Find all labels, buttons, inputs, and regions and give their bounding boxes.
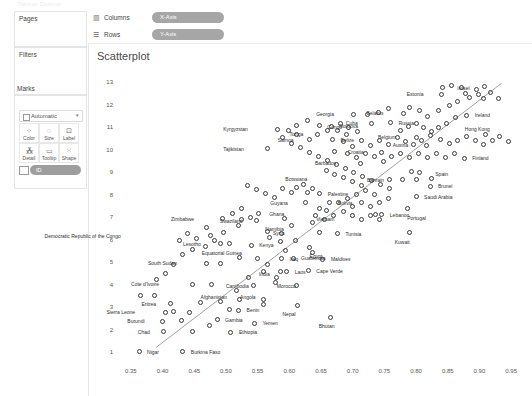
- mark-type-select[interactable]: Automatic ▾: [19, 110, 83, 122]
- columns-shelf[interactable]: ▥ Columns X-Axis: [88, 9, 532, 27]
- scatter-point[interactable]: [386, 106, 391, 111]
- scatter-point[interactable]: [386, 196, 391, 201]
- scatter-point[interactable]: [307, 245, 312, 250]
- scatter-point[interactable]: [190, 247, 195, 252]
- scatter-point[interactable]: [332, 172, 337, 177]
- scatter-point[interactable]: [350, 144, 355, 149]
- scatter-point[interactable]: [447, 103, 452, 108]
- marks-field-pill-id[interactable]: ID: [30, 165, 81, 175]
- scatter-point[interactable]: [482, 84, 487, 89]
- scatter-point[interactable]: [388, 120, 393, 125]
- scatter-point[interactable]: [282, 216, 287, 221]
- scatter-point[interactable]: [490, 138, 495, 143]
- scatter-point[interactable]: [368, 213, 373, 218]
- size-button[interactable]: ◌ Size: [39, 123, 59, 143]
- scatter-point[interactable]: [395, 135, 400, 140]
- scatter-point[interactable]: [358, 161, 363, 166]
- scatter-point[interactable]: [345, 151, 350, 156]
- shape-button[interactable]: ⁙ Shape: [59, 143, 79, 163]
- scatter-point[interactable]: [310, 220, 315, 225]
- scatter-point[interactable]: [405, 206, 410, 211]
- scatter-point[interactable]: [417, 170, 422, 175]
- scatter-point[interactable]: [303, 200, 308, 205]
- rows-pill-y-axis[interactable]: Y-Axis: [152, 29, 224, 40]
- scatter-point[interactable]: [436, 108, 441, 113]
- scatter-point[interactable]: [280, 186, 285, 191]
- scatter-point[interactable]: [152, 293, 157, 298]
- scatter-point[interactable]: [331, 213, 336, 218]
- scatter-point[interactable]: [230, 211, 235, 216]
- scatter-point[interactable]: [334, 162, 339, 167]
- scatter-point[interactable]: [473, 138, 478, 143]
- scatter-point[interactable]: [305, 118, 310, 123]
- scatter-point[interactable]: [179, 318, 184, 323]
- scatter-point[interactable]: [351, 112, 356, 117]
- scatter-point[interactable]: [265, 262, 270, 267]
- scatter-point[interactable]: [163, 271, 168, 276]
- scatter-point[interactable]: [221, 230, 226, 235]
- scatter-point[interactable]: [377, 217, 382, 222]
- scatter-point[interactable]: [265, 146, 270, 151]
- scatter-point[interactable]: [381, 159, 386, 164]
- detail-button[interactable]: ⁂ Detail: [19, 143, 39, 163]
- scatter-point[interactable]: [301, 182, 306, 187]
- scatter-point[interactable]: [428, 184, 433, 189]
- scatter-point[interactable]: [414, 177, 419, 182]
- scatter-point[interactable]: [368, 143, 373, 148]
- scatter-point[interactable]: [327, 200, 332, 205]
- scatter-point[interactable]: [439, 92, 444, 97]
- scatter-point[interactable]: [227, 241, 232, 246]
- scatter-point[interactable]: [306, 268, 311, 273]
- scatter-point[interactable]: [203, 244, 208, 249]
- scatter-point[interactable]: [434, 151, 439, 156]
- scatter-point[interactable]: [414, 135, 419, 140]
- scatter-point[interactable]: [218, 261, 223, 266]
- scatter-point[interactable]: [363, 188, 368, 193]
- scatter-point[interactable]: [497, 134, 502, 139]
- scatter-point[interactable]: [228, 330, 233, 335]
- scatter-point[interactable]: [207, 323, 212, 328]
- scatter-point[interactable]: [363, 151, 368, 156]
- scatter-point[interactable]: [220, 216, 225, 221]
- scatter-point[interactable]: [373, 212, 378, 217]
- scatter-point[interactable]: [245, 183, 250, 188]
- scatter-point[interactable]: [467, 95, 472, 100]
- scatter-point[interactable]: [481, 96, 486, 101]
- scatter-point[interactable]: [239, 217, 244, 222]
- scatter-point[interactable]: [350, 179, 355, 184]
- scatter-point[interactable]: [481, 142, 486, 147]
- scatter-point[interactable]: [428, 133, 433, 138]
- scatter-point[interactable]: [476, 92, 481, 97]
- scatter-point[interactable]: [252, 321, 257, 326]
- scatter-point[interactable]: [237, 255, 242, 260]
- scatter-point[interactable]: [307, 137, 312, 142]
- scatter-point[interactable]: [138, 293, 143, 298]
- scatter-point[interactable]: [369, 121, 374, 126]
- scatter-point[interactable]: [359, 138, 364, 143]
- scatter-point[interactable]: [317, 206, 322, 211]
- scatter-point[interactable]: [409, 169, 414, 174]
- scatter-point[interactable]: [464, 113, 469, 118]
- scatter-point[interactable]: [246, 275, 251, 280]
- scatter-point[interactable]: [168, 301, 173, 306]
- scatter-point[interactable]: [316, 154, 321, 159]
- scatter-point[interactable]: [328, 315, 333, 320]
- columns-pill-x-axis[interactable]: X-Axis: [152, 12, 224, 23]
- scatter-point[interactable]: [239, 206, 244, 211]
- scatter-point[interactable]: [324, 168, 329, 173]
- scatter-point[interactable]: [180, 252, 185, 257]
- scatter-point[interactable]: [343, 166, 348, 171]
- scatter-point[interactable]: [379, 150, 384, 155]
- scatter-point[interactable]: [416, 151, 421, 156]
- scatter-point[interactable]: [346, 125, 351, 130]
- scatter-point[interactable]: [425, 114, 430, 119]
- scatter-point[interactable]: [414, 121, 419, 126]
- scatter-point[interactable]: [332, 149, 337, 154]
- scatter-point[interactable]: [429, 176, 434, 181]
- scatter-point[interactable]: [212, 238, 217, 243]
- scatter-point[interactable]: [443, 155, 448, 160]
- scatter-point[interactable]: [389, 154, 394, 159]
- marks-card[interactable]: Marks Automatic ▾ ⁘ Color ◌ Size ⊡ Label: [14, 95, 87, 189]
- scatter-point[interactable]: [407, 105, 412, 110]
- scatter-point[interactable]: [354, 155, 359, 160]
